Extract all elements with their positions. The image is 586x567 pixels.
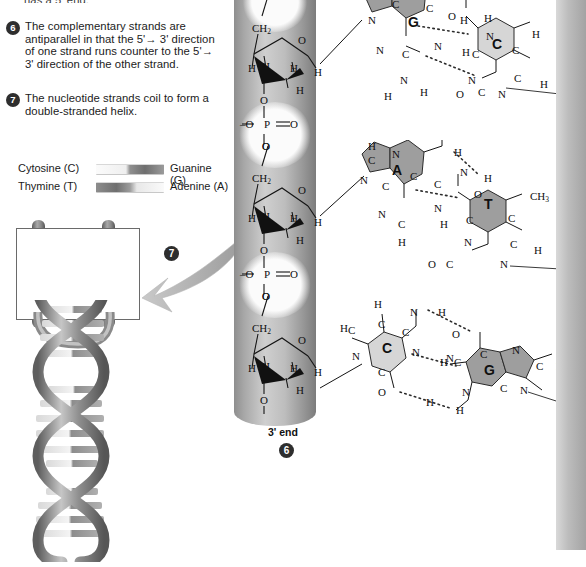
atom-H: H — [290, 212, 298, 224]
atom-ring-O: O — [298, 184, 306, 196]
atom-H: H — [248, 362, 256, 374]
atom-H: H — [484, 172, 492, 184]
atom-O: O — [262, 140, 270, 152]
hydrogen-bond — [400, 392, 450, 408]
step-7-text: The nucleotide strands coil to form a do… — [25, 92, 222, 117]
atom-H: H — [532, 28, 540, 40]
atom-O: O — [378, 386, 386, 398]
atom-N: N — [360, 174, 368, 186]
atom-O: O — [290, 118, 298, 130]
atom-C: C — [378, 318, 385, 330]
step-7-number-badge: 7 — [6, 93, 20, 107]
atom-N: N — [410, 306, 418, 318]
atom-N: N — [434, 40, 442, 52]
atom-N: N — [376, 44, 384, 56]
atom-C: C — [500, 382, 507, 394]
atom-N: N — [512, 344, 520, 356]
atom-C: C — [472, 48, 479, 60]
atom-H: H — [296, 84, 304, 96]
atom-O: O — [474, 188, 482, 200]
atom-H: H — [462, 46, 470, 58]
atom-C: C — [410, 170, 417, 182]
atom-C: C — [512, 44, 519, 56]
atom-H: H — [484, 12, 492, 24]
atom-C: C — [480, 348, 487, 360]
atom-N: N — [378, 208, 386, 220]
atom-O: O — [456, 88, 464, 100]
nucleotide-unit-bottom — [234, 294, 326, 414]
atom-C: C — [446, 258, 453, 270]
atom-C: C — [466, 214, 473, 226]
atom-O: O — [260, 244, 268, 256]
atom-C: C — [348, 324, 355, 336]
atom-P: P — [264, 118, 270, 130]
hydrogen-bond — [416, 190, 460, 198]
base-pair-legend: Cytosine (C) Guanine (G) Thymine (T) Ade… — [18, 160, 230, 196]
atom-O-minus: –O — [240, 268, 253, 280]
atom-H: H — [454, 146, 462, 158]
legend-row-cg: Cytosine (C) Guanine (G) — [18, 160, 230, 178]
atom-H: H — [248, 62, 256, 74]
atom-O: O — [290, 268, 298, 280]
atom-N: N — [486, 30, 494, 42]
base-letter-G: G — [484, 362, 495, 378]
atom-C: C — [434, 178, 441, 190]
atom-H: H — [290, 62, 298, 74]
three-prime-end-label: 3' end — [268, 426, 298, 438]
atom-H: H — [456, 404, 464, 416]
ladder-callout-badge-7: 7 — [164, 246, 179, 261]
step-6: 6 The complementary strands are antipara… — [6, 20, 222, 70]
double-helix-illustration — [8, 300, 158, 562]
hydrogen-bond — [426, 56, 476, 76]
atom-H: H — [262, 60, 270, 72]
methyl-group: CH3 — [530, 190, 549, 204]
atom-H: H — [440, 218, 448, 230]
backbone-end-badge-6: 6 — [279, 443, 294, 458]
atom-H: H — [398, 236, 406, 248]
atom-C: C — [382, 180, 389, 192]
atom-O: O — [452, 328, 460, 340]
atom-C: C — [426, 2, 433, 14]
atom-N: N — [468, 74, 476, 86]
atom-C: C — [478, 86, 485, 98]
base-letter-A: A — [392, 162, 402, 178]
base-letter-C: C — [382, 340, 392, 356]
atom-N: N — [368, 14, 376, 26]
atom-H: H — [426, 396, 434, 408]
atom-H: H — [262, 210, 270, 222]
instruction-text-column: has a 5' end. 6 The complementary strand… — [0, 0, 226, 150]
atom-H: H — [534, 244, 542, 256]
atom-C: C — [508, 212, 515, 224]
atom-O: O — [428, 258, 436, 270]
atom-N: N — [462, 386, 470, 398]
atom-N: N — [446, 352, 454, 364]
legend-label-adenine: Adenine (A) — [170, 180, 228, 192]
atom-C: C — [378, 366, 385, 378]
atom-H: H — [460, 14, 468, 26]
atom-H: H — [384, 90, 392, 102]
atom-ring-O: O — [298, 334, 306, 346]
atom-N: N — [460, 166, 468, 178]
legend-label-cytosine: Cytosine (C) — [18, 162, 90, 174]
atom-N: N — [352, 350, 360, 362]
atom-C: C — [454, 356, 461, 368]
guanine-ring-bottom — [466, 346, 534, 386]
atom-N: N — [392, 148, 400, 160]
atom-P: P — [264, 268, 270, 280]
atom-O: O — [260, 394, 268, 406]
step-6-number-badge: 6 — [6, 21, 20, 35]
atom-N: N — [412, 346, 420, 358]
atom-ring-O: O — [298, 34, 306, 46]
atom-H: H — [248, 212, 256, 224]
atom-C: C — [514, 72, 521, 84]
atom-H: H — [420, 86, 428, 98]
atom-CH2: CH2 — [252, 172, 271, 186]
legend-bar-ta — [96, 182, 164, 193]
legend-label-thymine: Thymine (T) — [18, 180, 90, 192]
base-letter-T: T — [484, 196, 493, 212]
atom-C: C — [536, 360, 543, 372]
atom-N: N — [400, 74, 408, 86]
atom-O-minus: –O — [240, 118, 253, 130]
atom-C: C — [392, 0, 399, 10]
atom-C: C — [368, 154, 375, 166]
